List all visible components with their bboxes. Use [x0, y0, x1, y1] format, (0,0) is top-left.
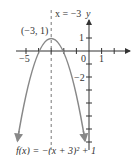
y-tick-label-1: 1 — [79, 32, 84, 43]
symmetry-label: x = −3 — [55, 8, 81, 19]
parabola-graph: −5 0 1 1 −2 y x = −3 (−3, 1) f(x) = −(x … — [0, 0, 136, 155]
x-tick-label-0: 0 — [81, 53, 86, 64]
vertex-label: (−3, 1) — [21, 25, 48, 37]
y-axis-label: y — [85, 8, 91, 19]
function-label: f(x) = −(x + 3)² + 1 — [16, 145, 96, 155]
curve-arrow-left — [18, 131, 20, 141]
curve-arrow-right — [83, 131, 85, 141]
y-tick-label-neg2: −2 — [74, 72, 85, 83]
x-tick-label-neg5: −5 — [19, 53, 30, 64]
x-tick-label-1: 1 — [99, 53, 104, 64]
